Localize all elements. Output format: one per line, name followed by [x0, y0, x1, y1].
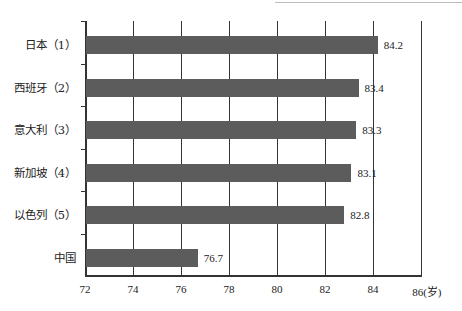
category-label: 西班牙（2）	[14, 79, 76, 97]
x-tick-label: 76	[176, 283, 187, 295]
y-tick	[81, 234, 86, 235]
y-tick	[81, 21, 86, 22]
x-tick-label: 74	[128, 283, 139, 295]
y-tick	[81, 106, 86, 107]
bar-chart: 727476788082848686(岁)日本（1）84.2西班牙（2）83.4…	[0, 0, 462, 311]
gridline-84	[373, 21, 374, 276]
bar	[86, 121, 356, 139]
category-label: 中国	[54, 249, 76, 267]
category-label: 新加坡（4）	[14, 164, 76, 182]
gridline-78	[229, 21, 230, 276]
x-tick-label: 84	[368, 283, 379, 295]
category-label: 日本（1）	[25, 36, 76, 54]
x-tick-label: 72	[80, 283, 91, 295]
bar	[86, 249, 198, 267]
category-label: 以色列（5）	[14, 206, 76, 224]
y-tick	[81, 64, 86, 65]
gridline-76	[181, 21, 182, 276]
x-tick-label: 78	[224, 283, 235, 295]
value-label: 76.7	[204, 249, 223, 267]
gridline-86	[421, 21, 422, 276]
gridline-80	[277, 21, 278, 276]
x-axis	[85, 275, 422, 277]
category-label: 意大利（3）	[14, 121, 76, 139]
value-label: 83.4	[365, 79, 384, 97]
value-label: 83.1	[357, 164, 376, 182]
gridline-74	[133, 21, 134, 276]
x-tick-label: 80	[272, 283, 283, 295]
bar	[86, 164, 351, 182]
y-tick	[81, 191, 86, 192]
x-axis-unit-label: 86(岁)	[412, 283, 441, 299]
value-label: 83.3	[362, 121, 381, 139]
bar	[86, 36, 378, 54]
bar	[86, 79, 359, 97]
value-label: 84.2	[384, 36, 403, 54]
gridline-82	[325, 21, 326, 276]
bar	[86, 206, 344, 224]
y-tick	[81, 149, 86, 150]
x-tick-label: 82	[320, 283, 331, 295]
value-label: 82.8	[350, 206, 369, 224]
